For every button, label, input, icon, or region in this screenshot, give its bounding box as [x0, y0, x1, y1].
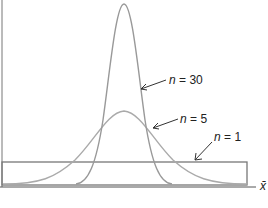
- arrow-n30: [141, 80, 166, 89]
- label-n5: n = 5: [180, 112, 207, 126]
- chart-canvas: [0, 0, 268, 208]
- label-n30: n = 30: [169, 73, 203, 87]
- uniform-n1-curve: [2, 162, 247, 185]
- x-axis-label: x̄: [260, 179, 266, 193]
- arrow-n5: [153, 119, 178, 128]
- label-n1: n = 1: [214, 130, 241, 144]
- normal-n30-curve: [76, 4, 172, 184]
- arrow-n1: [195, 142, 212, 160]
- normal-n5-curve: [3, 111, 247, 184]
